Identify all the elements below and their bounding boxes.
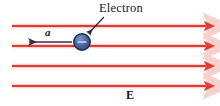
acceleration-label: a xyxy=(45,27,51,38)
diagram-canvas xyxy=(0,0,220,106)
electric-field-label: E xyxy=(126,89,134,101)
electron-label: Electron xyxy=(99,2,143,15)
electron-particle xyxy=(74,34,90,50)
electric-field-lines xyxy=(12,26,206,86)
field-line-halos xyxy=(12,26,207,86)
physics-diagram-electron-in-electric-field: Electron a E xyxy=(0,0,220,106)
